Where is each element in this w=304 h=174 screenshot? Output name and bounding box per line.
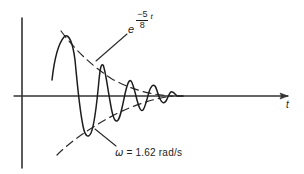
envelope-base: e: [128, 24, 134, 35]
damped-oscillation-curve: [52, 36, 183, 136]
omega-units: rad/s: [159, 147, 182, 158]
omega-equals: =: [127, 147, 133, 158]
envelope-leader-line: [96, 34, 127, 61]
envelope-denominator: 8: [139, 21, 146, 30]
envelope-fraction: −5 8: [136, 10, 148, 30]
envelope-exponent: −5 8 t: [135, 10, 153, 30]
envelope-numerator: −5: [136, 10, 148, 19]
omega-annotation: ω = 1.62 rad/s: [115, 148, 182, 158]
envelope-exponent-variable: t: [150, 13, 152, 21]
omega-value: 1.62: [136, 147, 156, 158]
envelope-label: e −5 8 t: [128, 10, 153, 30]
omega-leader-line: [95, 129, 116, 146]
omega-symbol: ω: [115, 147, 124, 158]
time-axis-label: t: [286, 100, 289, 110]
